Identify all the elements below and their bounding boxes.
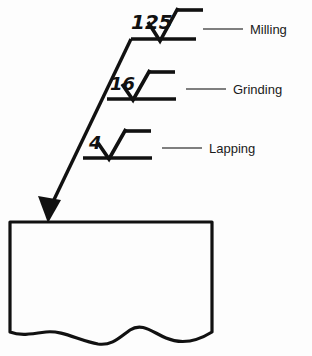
callout-grinding: 16 Grinding [107, 70, 282, 100]
roughness-value-milling: 125 [131, 10, 173, 34]
callout-lapping: 4 Lapping [83, 129, 255, 159]
main-leader-line [50, 39, 131, 208]
surface-finish-diagram: 125 Milling 16 Grinding 4 Lapping [0, 0, 312, 356]
diagram-canvas: 125 Milling 16 Grinding 4 Lapping [0, 0, 312, 356]
process-label-milling: Milling [250, 22, 287, 37]
process-label-lapping: Lapping [209, 141, 255, 156]
workpiece-outline [10, 222, 212, 344]
check-mark-lapping [98, 129, 126, 159]
process-label-grinding: Grinding [233, 82, 282, 97]
leader-arrowhead [38, 196, 61, 223]
roughness-value-lapping: 4 [88, 132, 102, 153]
roughness-value-grinding: 16 [110, 73, 135, 94]
callout-milling: 125 Milling [131, 8, 287, 41]
